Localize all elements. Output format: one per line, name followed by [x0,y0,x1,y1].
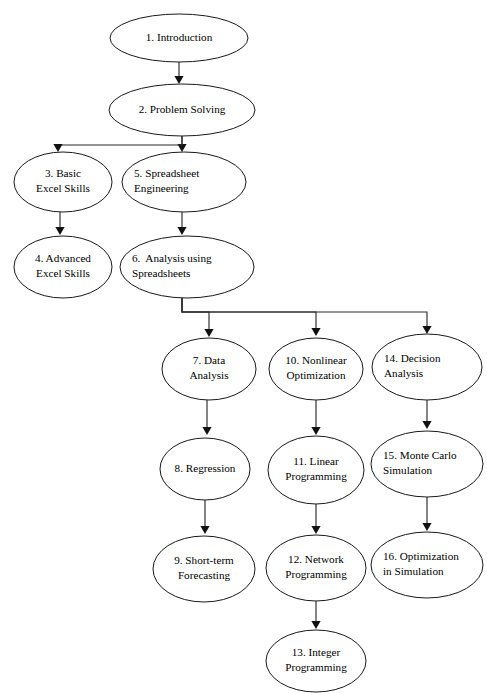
edge-6-to-7-line [182,298,209,332]
edge-6-to-10 [182,298,321,336]
edge-layer [53,62,431,629]
node-monte-carlo-simulation-label-line-2: Simulation [383,464,433,476]
node-problem-solving-label-line-1: 2. Problem Solving [139,103,226,115]
node-basic-excel-skills-label-line-1: 3. Basic [45,167,81,179]
edge-6-to-14 [182,298,432,334]
edge-2-to-3 [53,136,182,152]
node-short-term-forecasting-label-line-1: 9. Short-term [174,554,234,566]
edge-8-to-9-arrowhead-icon [200,526,209,534]
node-integer-programming-label-line-2: Programming [285,661,347,673]
node-decision-analysis-label-line-2: Analysis [384,367,423,379]
node-optimization-in-simulation[interactable]: 16. Optimizationin Simulation [371,532,483,598]
node-spreadsheet-engineering-label-line-2: Engineering [134,182,189,194]
edge-14-to-15 [422,400,431,429]
node-data-analysis-label-line-2: Analysis [189,369,228,381]
node-analysis-using-spreadsheets[interactable]: 6. Analysis usingSpreadsheets [120,236,254,298]
node-advanced-excel-skills[interactable]: 4. AdvancedExcel Skills [14,236,112,298]
edge-6-to-10-arrowhead-icon [311,328,320,336]
node-data-analysis-label-line-1: 7. Data [193,354,225,366]
edge-11-to-12-arrowhead-icon [311,526,320,534]
node-basic-excel-skills-label-line-2: Excel Skills [36,182,90,194]
edge-2-to-3-arrowhead-icon [53,144,62,152]
node-short-term-forecasting-label-line-2: Forecasting [178,569,231,581]
edge-5-to-6 [177,212,186,235]
edge-3-to-4 [55,212,64,235]
edge-10-to-11 [311,400,320,435]
node-network-programming[interactable]: 12. NetworkProgramming [266,535,366,601]
node-advanced-excel-skills-label-line-2: Excel Skills [36,267,90,279]
edge-7-to-8 [202,400,211,435]
node-linear-programming[interactable]: 11. LinearProgramming [268,436,364,504]
node-analysis-using-spreadsheets-label-line-2: Spreadsheets [132,267,190,279]
node-regression-label-line-1: 8. Regression [175,462,236,474]
edge-10-to-11-arrowhead-icon [311,427,320,435]
edge-8-to-9 [200,500,209,534]
node-nonlinear-optimization[interactable]: 10. NonlinearOptimization [269,338,363,400]
node-network-programming-label-line-2: Programming [285,568,347,580]
node-linear-programming-label-line-1: 11. Linear [293,455,339,467]
edge-6-to-10-line [182,298,316,331]
edge-12-to-13 [311,601,320,629]
node-advanced-excel-skills-label-line-1: 4. Advanced [35,252,91,264]
flowchart-canvas: 1. Introduction2. Problem Solving3. Basi… [0,0,487,693]
node-introduction-label-line-1: 1. Introduction [146,31,213,43]
node-nonlinear-optimization-label-line-2: Optimization [286,369,345,381]
edge-15-to-16-arrowhead-icon [422,523,431,531]
node-problem-solving[interactable]: 2. Problem Solving [109,84,255,136]
edge-6-to-14-arrowhead-icon [422,326,431,334]
edge-12-to-13-arrowhead-icon [311,621,320,629]
node-data-analysis[interactable]: 7. DataAnalysis [162,338,256,400]
node-network-programming-label-line-1: 12. Network [288,553,344,565]
node-linear-programming-label-line-2: Programming [285,470,347,482]
edge-14-to-15-arrowhead-icon [422,421,431,429]
edge-6-to-14-line [182,298,427,329]
node-nonlinear-optimization-label-line-1: 10. Nonlinear [285,354,347,366]
edge-5-to-6-arrowhead-icon [177,227,186,235]
edge-6-to-7-arrowhead-icon [204,329,213,337]
edge-7-to-8-arrowhead-icon [202,427,211,435]
node-integer-programming-label-line-1: 13. Integer [292,646,341,658]
edge-11-to-12 [311,504,320,534]
edge-1-to-2 [174,62,183,84]
node-analysis-using-spreadsheets-label-line-1: 6. Analysis using [132,252,212,264]
node-decision-analysis-label-line-1: 14. Decision [384,352,441,364]
node-monte-carlo-simulation[interactable]: 15. Monte CarloSimulation [371,431,483,497]
edge-2-to-3-line [58,136,182,148]
node-optimization-in-simulation-label-line-1: 16. Optimization [383,550,459,562]
node-spreadsheet-engineering-label-line-1: 5. Spreadsheet [134,167,200,179]
node-decision-analysis[interactable]: 14. DecisionAnalysis [372,334,482,400]
node-regression[interactable]: 8. Regression [160,438,250,500]
node-basic-excel-skills[interactable]: 3. BasicExcel Skills [14,152,112,212]
node-introduction[interactable]: 1. Introduction [110,14,248,62]
edge-3-to-4-arrowhead-icon [55,227,64,235]
node-integer-programming[interactable]: 13. IntegerProgramming [266,630,366,692]
node-short-term-forecasting[interactable]: 9. Short-termForecasting [153,536,255,602]
node-monte-carlo-simulation-label-line-1: 15. Monte Carlo [383,449,457,461]
flowchart-svg: 1. Introduction2. Problem Solving3. Basi… [0,0,487,693]
edge-6-to-7 [182,298,214,337]
node-spreadsheet-engineering[interactable]: 5. SpreadsheetEngineering [122,152,246,212]
edge-1-to-2-arrowhead-icon [174,76,183,84]
edge-15-to-16 [422,497,431,531]
node-optimization-in-simulation-label-line-2: in Simulation [383,565,444,577]
node-layer: 1. Introduction2. Problem Solving3. Basi… [14,14,483,692]
